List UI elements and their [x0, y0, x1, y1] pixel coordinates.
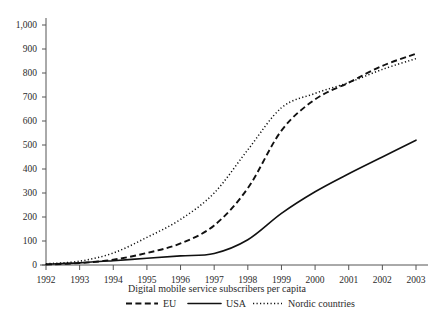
y-axis-tick-label: 800 — [23, 68, 38, 78]
x-axis-tick-label: 2002 — [373, 275, 392, 285]
chart-container: 01002003004005006007008009001,0001992199… — [0, 0, 430, 319]
x-axis-tick-label: 1992 — [37, 275, 56, 285]
legend-label-nordic-countries: Nordic countries — [288, 298, 355, 309]
line-chart: 01002003004005006007008009001,0001992199… — [0, 0, 430, 319]
series-line-eu — [46, 54, 416, 265]
y-axis-tick-label: 200 — [23, 212, 38, 222]
y-axis-tick-label: 100 — [23, 236, 38, 246]
y-axis-tick-label: 400 — [23, 164, 38, 174]
legend-label-eu: EU — [163, 298, 177, 309]
legend-label-usa: USA — [226, 298, 247, 309]
x-axis-tick-label: 2001 — [339, 275, 358, 285]
x-axis-tick-label: 2003 — [407, 275, 426, 285]
y-axis-tick-label: 700 — [23, 92, 38, 102]
x-axis-tick-label: 1994 — [104, 275, 123, 285]
series-line-nordic-countries — [46, 59, 416, 264]
chart-caption: Digital mobile service subscribers per c… — [128, 283, 307, 294]
series-line-usa — [46, 140, 416, 264]
y-axis-tick-label: 0 — [32, 260, 37, 270]
x-axis-tick-label: 2000 — [306, 275, 325, 285]
y-axis-tick-label: 900 — [23, 44, 38, 54]
y-axis-tick-label: 300 — [23, 188, 38, 198]
x-axis-tick-label: 1993 — [70, 275, 89, 285]
y-axis-tick-label: 500 — [23, 140, 38, 150]
y-axis-tick-label: 600 — [23, 116, 38, 126]
y-axis-tick-label: 1,000 — [16, 20, 38, 30]
